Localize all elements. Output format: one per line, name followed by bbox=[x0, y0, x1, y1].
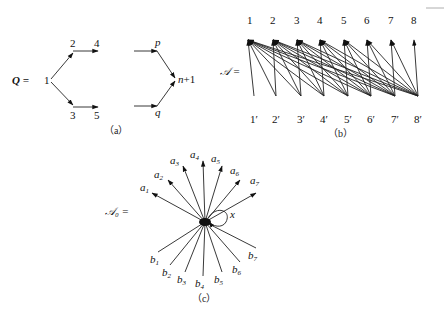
in-ray bbox=[185, 222, 205, 272]
bipartite-edge bbox=[248, 40, 371, 96]
b-label: b6 bbox=[232, 263, 242, 277]
bottom-node: 2′ bbox=[272, 113, 280, 125]
out-ray bbox=[152, 193, 205, 222]
top-node: 8 bbox=[411, 14, 417, 26]
caption-a: （a） bbox=[104, 125, 128, 136]
top-node: 6 bbox=[364, 14, 370, 26]
a-label: a6 bbox=[230, 164, 240, 178]
bipartite-edge bbox=[414, 40, 418, 96]
bottom-node: 8′ bbox=[414, 113, 422, 125]
top-node: 1 bbox=[247, 14, 253, 26]
bottom-node: 3′ bbox=[297, 113, 305, 125]
bipartite-edge bbox=[248, 40, 254, 96]
panel-a: Q = 1 2 4 3 5 p q n+1 （a） bbox=[12, 36, 195, 136]
bottom-node: 5′ bbox=[344, 113, 352, 125]
b-label: b7 bbox=[248, 249, 258, 263]
out-ray bbox=[183, 166, 205, 222]
top-node: 2 bbox=[270, 14, 276, 26]
bottom-node: 6′ bbox=[367, 113, 375, 125]
node-5: 5 bbox=[94, 109, 100, 121]
diagram-canvas: Q = 1 2 4 3 5 p q n+1 （a） 𝒜 = 12345678 1… bbox=[0, 0, 444, 311]
node-1: 1 bbox=[44, 74, 50, 86]
top-node-row: 12345678 bbox=[247, 14, 417, 26]
bipartite-edge bbox=[248, 40, 276, 96]
panel-c: 𝒜₀ = a1a2a3a4a5a6a7b1b2b3b4b5b6b7 x （c） bbox=[105, 148, 260, 304]
b-label: b1 bbox=[150, 253, 159, 267]
bipartite-edge bbox=[273, 40, 418, 96]
panel-b-title: 𝒜 = bbox=[220, 65, 240, 77]
top-node: 3 bbox=[294, 14, 300, 26]
b-label: b3 bbox=[177, 273, 187, 287]
node-n-plus-1: n+1 bbox=[178, 73, 195, 85]
out-ray bbox=[168, 180, 205, 222]
b-label: b5 bbox=[214, 273, 224, 287]
a-label: a2 bbox=[154, 168, 164, 182]
bipartite-edge bbox=[297, 40, 418, 96]
bipartite-edges bbox=[248, 40, 418, 96]
bottom-node: 7′ bbox=[391, 113, 399, 125]
a-label: a7 bbox=[250, 174, 260, 188]
bottom-node: 1′ bbox=[250, 113, 258, 125]
node-3: 3 bbox=[70, 109, 76, 121]
in-ray bbox=[203, 222, 205, 276]
node-2: 2 bbox=[70, 37, 76, 49]
a-label: a5 bbox=[211, 152, 221, 166]
in-ray bbox=[205, 222, 240, 262]
panel-b: 𝒜 = 12345678 1′2′3′4′5′6′7′8′ （b） bbox=[220, 8, 444, 139]
in-ray bbox=[158, 222, 205, 252]
edge-q-n1 bbox=[157, 81, 175, 106]
caption-c: （c） bbox=[192, 293, 216, 304]
bottom-node-row: 1′2′3′4′5′6′7′8′ bbox=[250, 113, 422, 125]
star-rays: a1a2a3a4a5a6a7b1b2b3b4b5b6b7 bbox=[140, 148, 260, 291]
edge-1-2 bbox=[51, 53, 73, 79]
caption-b: （b） bbox=[328, 128, 353, 139]
a-label: a4 bbox=[190, 148, 200, 162]
panel-a-title: Q = bbox=[12, 74, 29, 86]
top-node: 5 bbox=[341, 14, 347, 26]
out-ray bbox=[203, 161, 205, 222]
node-p: p bbox=[154, 36, 161, 48]
top-node: 7 bbox=[388, 14, 394, 26]
bipartite-edge bbox=[248, 40, 395, 96]
b-label: b4 bbox=[195, 277, 205, 291]
node-4: 4 bbox=[94, 37, 100, 49]
edge-p-n1 bbox=[157, 51, 175, 78]
edge-1-3 bbox=[51, 82, 73, 105]
bottom-node: 4′ bbox=[320, 113, 328, 125]
top-node: 4 bbox=[317, 14, 323, 26]
loop-label-x: x bbox=[229, 208, 235, 220]
node-q: q bbox=[155, 106, 161, 118]
in-ray bbox=[170, 222, 205, 265]
b-label: b2 bbox=[162, 266, 172, 280]
a-label: a1 bbox=[140, 181, 149, 195]
panel-c-title: 𝒜₀ = bbox=[105, 205, 129, 217]
a-label: a3 bbox=[170, 154, 180, 168]
